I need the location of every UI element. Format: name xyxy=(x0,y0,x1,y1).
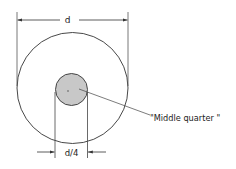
diagram-canvas: d d/4 "Middle quarter " xyxy=(0,0,236,169)
callout-leader-line xyxy=(79,89,150,115)
inner-dimension-label: d/4 xyxy=(65,148,79,158)
inner-circle-middle-quarter xyxy=(56,74,88,106)
callout-label-middle-quarter: "Middle quarter " xyxy=(150,113,220,123)
center-point xyxy=(67,90,69,92)
outer-dimension-label: d xyxy=(65,15,71,25)
